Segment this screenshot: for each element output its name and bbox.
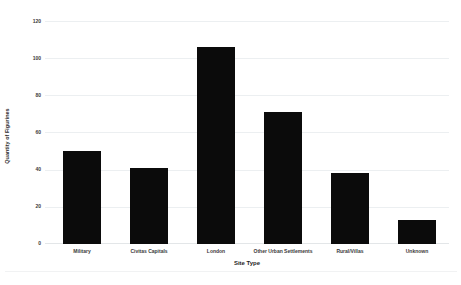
bar-chart-figure: Quantity of Figurines 120 100 80 60 40 2… — [0, 0, 461, 285]
y-tick-label-0: 0 — [1, 240, 41, 246]
gridline-100 — [45, 58, 449, 59]
y-tick-label-20: 20 — [1, 203, 41, 209]
plot-area — [45, 21, 449, 244]
gridline-20 — [45, 207, 449, 208]
y-tick-label-120: 120 — [1, 18, 41, 24]
y-tick-label-80: 80 — [1, 92, 41, 98]
gridline-60 — [45, 132, 449, 133]
bar-unknown[interactable] — [398, 220, 436, 244]
bar-other-urban-settlements[interactable] — [264, 112, 302, 244]
gridline-40 — [45, 170, 449, 171]
gridline-0 — [45, 243, 449, 244]
gridline-80 — [45, 95, 449, 96]
bar-military[interactable] — [63, 151, 101, 244]
x-tick-label-unknown: Unknown — [367, 248, 461, 255]
y-tick-label-60: 60 — [1, 129, 41, 135]
y-tick-label-40: 40 — [1, 166, 41, 172]
y-tick-label-100: 100 — [1, 55, 41, 61]
bar-civitas-capitals[interactable] — [130, 168, 168, 244]
gridline-120 — [45, 21, 449, 22]
y-axis-tick-labels: 120 100 80 60 40 20 0 — [0, 21, 41, 244]
bar-london[interactable] — [197, 47, 235, 244]
bar-rural-villas[interactable] — [331, 173, 369, 244]
x-axis-title: Site Type — [45, 259, 449, 268]
bottom-divider — [5, 271, 457, 272]
